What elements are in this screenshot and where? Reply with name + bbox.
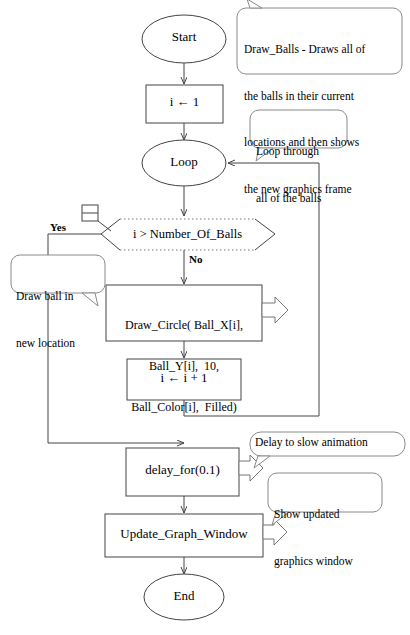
node-decision-right-side	[255, 219, 275, 234]
node-delay-shape	[126, 448, 239, 496]
node-decision-left-side	[101, 219, 120, 234]
node-draw-circle-shape	[106, 285, 262, 341]
node-start-shape	[142, 15, 226, 63]
flowchart-canvas: Start i ← 1 Loop i > Number_Of_Balls Yes…	[0, 0, 410, 635]
callout-delay-shape	[250, 432, 405, 456]
callout-loop-through-tail	[256, 148, 273, 161]
node-loop-shape	[142, 140, 226, 186]
callout-draw-balls-tail	[247, 0, 262, 8]
node-init-shape	[146, 85, 223, 123]
node-increment-shape	[127, 359, 241, 400]
callout-draw-ball-shape	[11, 255, 105, 293]
node-decision-left-side-lower	[101, 234, 120, 250]
note-icon-leader	[98, 221, 111, 231]
callout-draw-balls-shape	[237, 8, 402, 74]
node-update-window-shape	[105, 514, 263, 557]
callout-show-updated-tail	[272, 512, 289, 525]
node-end-shape	[144, 574, 224, 620]
callout-draw-ball-tail	[82, 293, 98, 306]
callout-delay-tail	[254, 456, 270, 468]
callout-show-updated-shape	[268, 473, 382, 512]
callout-loop-through-shape	[250, 110, 347, 148]
flowchart-svg	[0, 0, 410, 635]
draw-circle-callout-arrow	[262, 297, 288, 323]
node-decision-right-side-lower	[255, 234, 275, 250]
